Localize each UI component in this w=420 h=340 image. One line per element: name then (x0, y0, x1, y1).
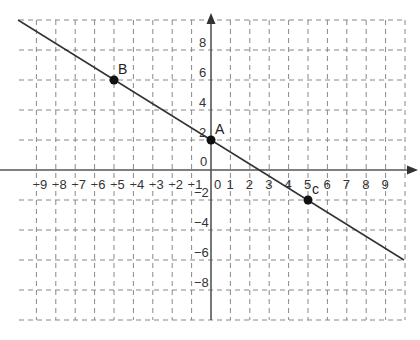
y-tick-label: −2 (194, 185, 209, 200)
axes (0, 13, 418, 320)
y-tick-label: 6 (199, 65, 206, 80)
x-tick-label: −3 (149, 177, 164, 192)
x-tick-label: 9 (382, 177, 389, 192)
point-label: c (312, 181, 319, 197)
y-tick-label: 4 (199, 95, 206, 110)
x-tick-label: 7 (343, 177, 350, 192)
origin-label: 0 (200, 154, 207, 169)
x-tick-label: −8 (52, 177, 67, 192)
y-tick-label: 8 (199, 35, 206, 50)
y-tick-label: −8 (194, 275, 209, 290)
point-label: B (118, 61, 127, 77)
point-label: A (215, 121, 225, 137)
x-tick-label: −6 (91, 177, 106, 192)
y-tick-label: −6 (194, 245, 209, 260)
x-tick-label: 3 (265, 177, 272, 192)
x-tick-label: −5 (110, 177, 125, 192)
y-tick-label: −4 (194, 215, 209, 230)
x-axis-arrow-icon (407, 166, 418, 175)
x-tick-label: 8 (362, 177, 369, 192)
x-tick-label: 0 (214, 177, 221, 192)
x-tick-label: −7 (71, 177, 86, 192)
x-tick-label: −9 (32, 177, 47, 192)
x-tick-label: 5 (304, 177, 311, 192)
x-tick-label: −2 (168, 177, 183, 192)
x-tick-label: 1 (226, 177, 233, 192)
x-tick-label: −4 (129, 177, 144, 192)
x-tick-label: 2 (246, 177, 253, 192)
x-tick-label: 6 (323, 177, 330, 192)
coordinate-plane: −9−8−7−6−5−4−3−2−10123456789 8642−2−4−6−… (0, 0, 420, 340)
y-axis-arrow-icon (207, 13, 216, 24)
